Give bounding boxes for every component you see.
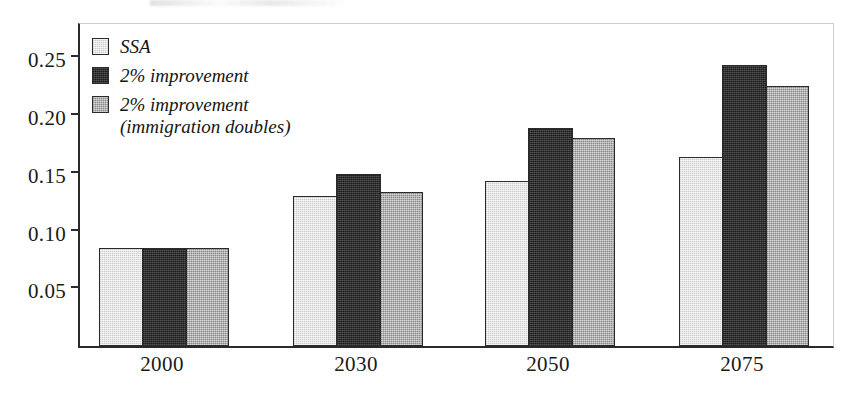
bar	[293, 196, 337, 346]
scan-artifact	[150, 0, 350, 6]
y-axis-tick	[71, 286, 80, 288]
bar	[766, 86, 809, 346]
bar	[485, 181, 529, 346]
y-axis-label: 0.15	[28, 163, 66, 188]
y-axis-tick	[71, 171, 80, 173]
bar	[186, 248, 229, 346]
bar	[572, 138, 615, 346]
bar-group	[485, 24, 615, 346]
bar	[679, 157, 723, 346]
bar	[528, 128, 572, 346]
y-axis-tick	[71, 113, 80, 115]
x-axis-label: 2000	[140, 352, 184, 377]
x-axis-label: 2075	[720, 352, 764, 377]
legend-item: 2% improvement (immigration doubles)	[92, 94, 352, 138]
legend-item: SSA	[92, 36, 352, 58]
bar	[336, 174, 380, 346]
x-axis-label: 2050	[526, 352, 570, 377]
y-axis-label: 0.10	[28, 221, 66, 246]
figure-bar-chart: 0.050.100.150.200.25 2000203020502075 SS…	[0, 0, 856, 394]
y-axis-label: 0.05	[28, 279, 66, 304]
y-axis-tick	[71, 55, 80, 57]
y-axis-label: 0.25	[28, 48, 66, 73]
legend-label: 2% improvement	[120, 65, 249, 87]
legend-swatch-improvement	[92, 67, 109, 84]
x-axis-label: 2030	[334, 352, 378, 377]
legend-swatch-improvement-immigration	[92, 96, 109, 113]
bar	[380, 192, 423, 346]
bar-group	[679, 24, 809, 346]
chart-legend: SSA 2% improvement 2% improvement (immig…	[92, 36, 352, 145]
y-axis-tick	[71, 229, 80, 231]
bar	[99, 248, 143, 346]
legend-label: 2% improvement (immigration doubles)	[120, 94, 290, 138]
bar	[722, 65, 766, 346]
bar	[142, 248, 186, 346]
legend-label: SSA	[120, 36, 151, 58]
y-axis-label: 0.20	[28, 106, 66, 131]
legend-swatch-ssa	[92, 38, 109, 55]
legend-item: 2% improvement	[92, 65, 352, 87]
